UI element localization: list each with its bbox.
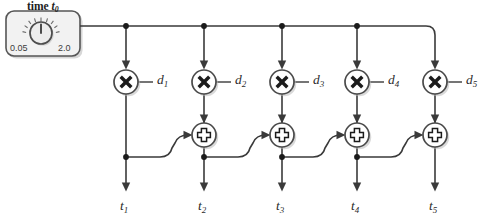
- bus-junction-2: [201, 23, 207, 29]
- coef-subscript: 5: [473, 79, 477, 89]
- bus-arrow-1: [122, 61, 130, 70]
- output-label-3: t3: [276, 199, 284, 215]
- mult-5-node[interactable]: [423, 70, 449, 96]
- coef-subscript: 4: [395, 79, 399, 89]
- adder-2-node[interactable]: [192, 123, 218, 149]
- output-arrow-2: [200, 183, 208, 192]
- coef-label-3: d3: [313, 73, 324, 89]
- knob-title-prefix: time: [27, 0, 49, 12]
- cascade-1-to-2: [126, 135, 190, 157]
- bus-arrow-4: [353, 61, 361, 70]
- cascade-arrow-4: [337, 131, 346, 139]
- bus-wire: [80, 26, 435, 62]
- mult-3-node[interactable]: [270, 70, 296, 96]
- knob-title: time t0: [27, 0, 59, 14]
- output-arrow-1: [122, 183, 130, 192]
- output-arrow-4: [353, 183, 361, 192]
- output-subscript: 2: [202, 205, 206, 215]
- tap-junction-3: [279, 154, 285, 160]
- coef-subscript: 3: [320, 79, 324, 89]
- mult-2-node[interactable]: [192, 70, 218, 96]
- cascade-arrow-2: [184, 131, 193, 139]
- output-arrow-3: [278, 183, 286, 192]
- output-subscript: 1: [124, 205, 128, 215]
- bus-junction-3: [279, 23, 285, 29]
- bus-junction-1: [123, 23, 129, 29]
- output-subscript: 4: [355, 205, 359, 215]
- output-arrows: [122, 183, 439, 192]
- tap-junction-4: [354, 154, 360, 160]
- tap-junction-1: [123, 154, 129, 160]
- tap-junction-2: [201, 154, 207, 160]
- adder-nodes: [192, 123, 449, 149]
- diagram-canvas: time t0 0.05 2.0 d1 d2 d3 d4 d5 t1 t2 t3…: [0, 0, 478, 222]
- output-subscript: 5: [433, 205, 437, 215]
- coef-symbol: d: [388, 72, 395, 87]
- cascade-arrow-3: [262, 131, 271, 139]
- coef-symbol: d: [313, 72, 320, 87]
- coef-symbol: d: [235, 72, 242, 87]
- coef-subscript: 1: [164, 79, 168, 89]
- coef-label-1: d1: [157, 73, 168, 89]
- adder-3-node[interactable]: [270, 123, 296, 149]
- coef-label-5: d5: [466, 73, 477, 89]
- cascade-arrow-5: [415, 131, 424, 139]
- knob-max-label: 2.0: [58, 43, 71, 53]
- output-label-1: t1: [120, 199, 128, 215]
- bus-arrow-5: [431, 61, 439, 70]
- output-arrow-5: [431, 183, 439, 192]
- output-label-4: t4: [351, 199, 359, 215]
- output-label-5: t5: [429, 199, 437, 215]
- coef-label-2: d2: [235, 73, 246, 89]
- coef-label-4: d4: [388, 73, 399, 89]
- bus-arrow-2: [200, 61, 208, 70]
- output-subscript: 3: [280, 205, 284, 215]
- bus-arrow-3: [278, 61, 286, 70]
- signal-flow-graph: [0, 0, 478, 222]
- distribution-bus: [80, 23, 439, 69]
- output-label-2: t2: [198, 199, 206, 215]
- knob-min-label: 0.05: [10, 43, 28, 53]
- mult-4-node[interactable]: [345, 70, 371, 96]
- adder-4-node[interactable]: [345, 123, 371, 149]
- knob-title-subscript: 0: [55, 5, 59, 14]
- adder-5-node[interactable]: [423, 123, 449, 149]
- coef-symbol: d: [157, 72, 164, 87]
- bus-junction-4: [354, 23, 360, 29]
- coef-symbol: d: [466, 72, 473, 87]
- coef-subscript: 2: [242, 79, 246, 89]
- mult-1-node[interactable]: [114, 70, 140, 96]
